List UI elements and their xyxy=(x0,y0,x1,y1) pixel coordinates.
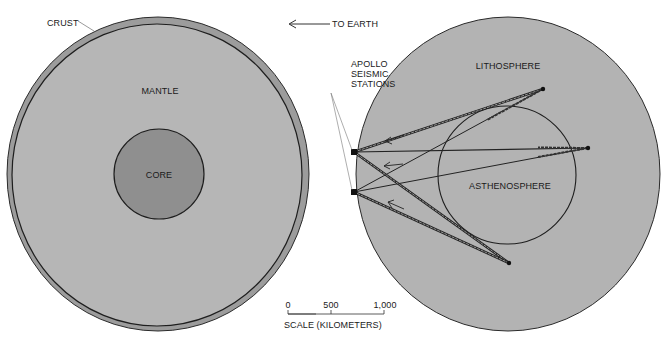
moonquake-source-2 xyxy=(586,146,590,150)
right-moon-seismic-section: LITHOSPHERE ASTHENOSPHERE xyxy=(331,17,660,331)
crust-leader-line xyxy=(78,21,94,31)
moonquake-source-3 xyxy=(507,261,511,265)
lithosphere-label: LITHOSPHERE xyxy=(476,61,541,71)
stations-label-line-1: APOLLO xyxy=(351,59,388,69)
scale-tick-500: 500 xyxy=(323,300,338,310)
scale-bar: 0 500 1,000 SCALE (KILOMETERS) xyxy=(284,300,397,330)
moon-interior-diagram: MANTLE CORE CRUST TO EARTH LITHOSPHERE A… xyxy=(0,0,664,341)
core-label: CORE xyxy=(146,170,172,180)
to-earth-label: TO EARTH xyxy=(332,19,378,29)
moonquake-source-1 xyxy=(541,87,545,91)
asthenosphere-label: ASTHENOSPHERE xyxy=(469,181,551,191)
stations-label-line-3: STATIONS xyxy=(351,79,395,89)
mantle-label: MANTLE xyxy=(141,86,178,96)
left-moon-cross-section: MANTLE CORE CRUST xyxy=(7,17,309,331)
scale-tick-0: 0 xyxy=(285,300,290,310)
crust-label: CRUST xyxy=(47,18,79,28)
stations-label-line-2: SEISMIC xyxy=(351,69,389,79)
to-earth-indicator: TO EARTH xyxy=(289,19,378,29)
scale-label: SCALE (KILOMETERS) xyxy=(284,320,382,330)
scale-tick-1000: 1,000 xyxy=(373,300,396,310)
